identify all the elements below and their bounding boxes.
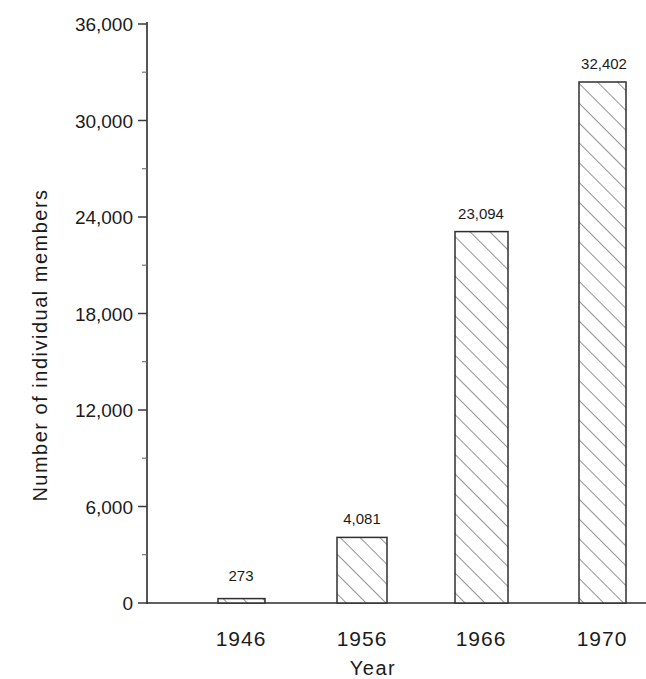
bar-value-1956: 4,081	[343, 510, 381, 527]
y-tick-label-0: 0	[122, 593, 133, 614]
y-tick-label-30000: 30,000	[75, 111, 133, 132]
bar-1970-fill	[579, 82, 626, 603]
x-axis-title: Year	[350, 657, 396, 679]
bar-1956[interactable]	[337, 537, 387, 603]
bar-value-1966: 23,094	[458, 205, 504, 222]
y-tick-label-18000: 18,000	[75, 304, 133, 325]
x-tick-label-1966: 1966	[456, 627, 507, 650]
bar-value-1946: 273	[228, 567, 253, 584]
y-tick-label-12000: 12,000	[75, 400, 133, 421]
y-axis-title: Number of individual members	[29, 188, 51, 501]
x-tick-label-1970: 1970	[577, 627, 628, 650]
bar-1970[interactable]	[579, 82, 626, 603]
chart-background	[0, 0, 646, 679]
y-tick-label-6000: 6,000	[85, 497, 133, 518]
chart-canvas: 36,000 30,000 24,000 18,000 12,000 6,000…	[0, 0, 646, 679]
bar-chart: 36,000 30,000 24,000 18,000 12,000 6,000…	[0, 0, 646, 679]
bar-1956-fill	[337, 537, 387, 603]
x-tick-label-1946: 1946	[216, 627, 267, 650]
bar-1946[interactable]	[218, 599, 265, 603]
bar-1966[interactable]	[455, 232, 508, 603]
y-tick-label-24000: 24,000	[75, 207, 133, 228]
bar-value-1970: 32,402	[581, 55, 627, 72]
bar-1966-fill	[455, 232, 508, 603]
x-tick-label-1956: 1956	[337, 627, 388, 650]
y-tick-label-36000: 36,000	[75, 14, 133, 35]
